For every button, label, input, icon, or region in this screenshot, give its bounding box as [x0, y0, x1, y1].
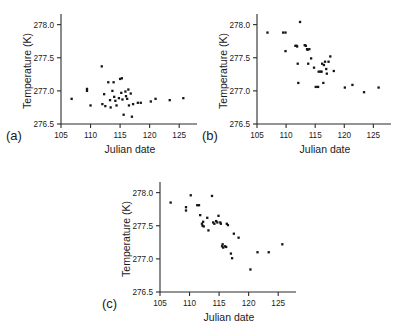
- data-point: [299, 21, 301, 23]
- data-point: [107, 81, 109, 83]
- x-tick-label: 120: [143, 131, 157, 140]
- panel-c-plot: 276.5277.0277.5278.0105110115120125Julia…: [98, 168, 298, 330]
- data-point: [120, 92, 122, 94]
- data-point: [333, 70, 335, 72]
- x-tick-label: 110: [280, 131, 293, 140]
- data-point: [104, 105, 106, 107]
- y-tick-label: 277.5: [230, 54, 251, 63]
- data-point: [268, 251, 270, 253]
- x-axis-title: Julian date: [105, 143, 156, 155]
- y-tick-label: 277.5: [133, 222, 154, 231]
- data-point: [86, 88, 88, 90]
- panel-b: 276.5277.0277.5278.0105110115120125Julia…: [196, 0, 395, 160]
- data-point: [329, 55, 331, 57]
- x-tick-label: 115: [309, 131, 322, 140]
- y-tick-label: 277.0: [133, 255, 154, 264]
- y-tick-label: 276.5: [34, 120, 55, 129]
- data-point: [114, 100, 116, 102]
- x-tick-label: 125: [271, 299, 285, 308]
- data-point: [118, 97, 120, 99]
- x-tick-label: 105: [153, 299, 167, 308]
- y-tick-label: 278.0: [34, 21, 55, 30]
- data-point: [130, 92, 132, 94]
- data-point: [127, 88, 129, 90]
- data-point: [225, 246, 227, 248]
- data-point: [101, 65, 103, 67]
- data-point: [111, 90, 113, 92]
- y-tick-label: 278.0: [133, 189, 154, 198]
- data-point: [101, 103, 103, 105]
- data-point: [112, 81, 114, 83]
- data-point: [182, 97, 184, 99]
- data-point: [202, 221, 204, 223]
- x-tick-label: 125: [172, 131, 186, 140]
- data-point: [256, 251, 258, 253]
- x-tick-label: 110: [84, 131, 97, 140]
- data-point: [249, 268, 251, 270]
- data-point: [327, 61, 329, 63]
- data-point: [128, 104, 130, 106]
- panel-c: 276.5277.0277.5278.0105110115120125Julia…: [98, 168, 298, 330]
- figure-three-scatter-panels: 276.5277.0277.5278.0105110115120125Julia…: [0, 0, 395, 330]
- data-point: [150, 100, 152, 102]
- data-point: [305, 45, 307, 47]
- data-point: [86, 90, 88, 92]
- data-point: [140, 102, 142, 104]
- data-point: [206, 217, 208, 219]
- data-point: [233, 233, 235, 235]
- y-tick-label: 276.5: [230, 120, 251, 129]
- data-point: [284, 50, 286, 52]
- data-point: [227, 224, 229, 226]
- data-point: [89, 104, 91, 106]
- x-tick-label: 110: [183, 299, 196, 308]
- data-point: [296, 45, 298, 47]
- data-point: [237, 237, 239, 239]
- x-axis-title: Julian date: [300, 143, 351, 155]
- data-point: [201, 223, 203, 225]
- data-point: [199, 214, 201, 216]
- data-point: [320, 71, 322, 73]
- data-point: [109, 99, 111, 101]
- data-point: [213, 223, 215, 225]
- x-axis-title: Julian date: [204, 311, 255, 323]
- data-point: [137, 102, 139, 104]
- x-tick-label: 105: [250, 131, 264, 140]
- y-tick-label: 277.0: [34, 87, 55, 96]
- data-point: [211, 195, 213, 197]
- panel-b-plot: 276.5277.0277.5278.0105110115120125Julia…: [196, 0, 395, 160]
- data-point: [315, 86, 317, 88]
- data-point: [282, 31, 284, 33]
- data-point: [207, 229, 209, 231]
- data-point: [324, 61, 326, 63]
- data-point: [281, 243, 283, 245]
- x-tick-label: 115: [114, 131, 127, 140]
- data-point: [121, 98, 123, 100]
- data-point: [325, 68, 327, 70]
- data-point: [70, 98, 72, 100]
- data-point: [109, 106, 111, 108]
- x-tick-label: 105: [54, 131, 68, 140]
- data-point: [122, 114, 124, 116]
- y-tick-label: 276.5: [133, 288, 154, 297]
- data-point: [216, 221, 218, 223]
- data-point: [322, 82, 324, 84]
- data-point: [307, 63, 309, 65]
- data-point: [185, 206, 187, 208]
- x-tick-label: 125: [367, 131, 381, 140]
- y-tick-label: 278.0: [230, 21, 251, 30]
- data-point: [124, 90, 126, 92]
- data-point: [113, 96, 115, 98]
- panel-b-label: (b): [202, 128, 218, 143]
- y-axis-title: Temperature (K): [120, 201, 132, 277]
- data-point: [220, 223, 222, 225]
- y-axis-title: Temperature (K): [217, 33, 229, 109]
- y-tick-label: 277.0: [230, 87, 251, 96]
- data-point: [313, 67, 315, 69]
- y-axis-title: Temperature (K): [21, 33, 33, 109]
- data-point: [131, 116, 133, 118]
- data-point: [323, 64, 325, 66]
- x-tick-label: 120: [337, 131, 351, 140]
- data-point: [190, 194, 192, 196]
- data-point: [266, 31, 268, 33]
- data-point: [284, 31, 286, 33]
